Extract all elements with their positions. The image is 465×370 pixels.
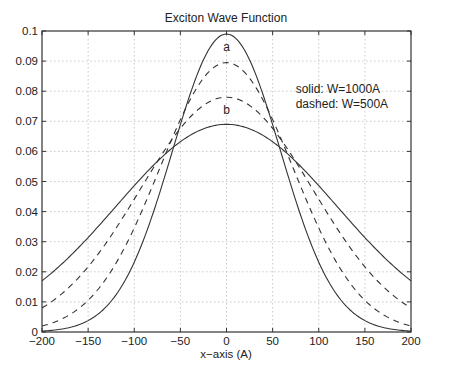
- x-tick-label: 50: [266, 335, 279, 347]
- y-tick-label: 0.04: [16, 206, 39, 218]
- y-tick-label: 0: [32, 326, 38, 338]
- chart-title: Exciton Wave Function: [165, 11, 287, 25]
- axis-ticks: −200−150−100−5005010015020000.010.020.03…: [16, 25, 421, 347]
- annotation: solid: W=1000A: [296, 82, 380, 96]
- grid-lines: [42, 31, 411, 332]
- data-curves: [42, 34, 411, 331]
- chart: Exciton Wave Function −200−150−100−50050…: [0, 0, 465, 370]
- y-tick-label: 0.03: [16, 236, 38, 248]
- annotation: dashed: W=500A: [296, 97, 388, 111]
- x-tick-label: −50: [171, 335, 191, 347]
- y-tick-label: 0.02: [16, 266, 38, 278]
- solid-curve: [42, 34, 411, 331]
- annotations: absolid: W=1000Adashed: W=500A: [223, 40, 388, 117]
- y-tick-label: 0.1: [22, 25, 38, 37]
- x-tick-label: 0: [223, 335, 229, 347]
- y-tick-label: 0.01: [16, 296, 38, 308]
- y-tick-label: 0.07: [16, 115, 38, 127]
- x-tick-label: 200: [401, 335, 420, 347]
- x-tick-label: −150: [75, 335, 101, 347]
- annotation: a: [223, 40, 230, 54]
- x-axis-label: x−axis (A): [200, 348, 252, 360]
- y-tick-label: 0.05: [16, 176, 38, 188]
- y-tick-label: 0.06: [16, 145, 38, 157]
- y-tick-label: 0.09: [16, 55, 38, 67]
- annotation: b: [223, 103, 230, 117]
- y-tick-label: 0.08: [16, 85, 38, 97]
- x-tick-label: 150: [355, 335, 374, 347]
- x-tick-label: −100: [121, 335, 147, 347]
- x-tick-label: 100: [309, 335, 328, 347]
